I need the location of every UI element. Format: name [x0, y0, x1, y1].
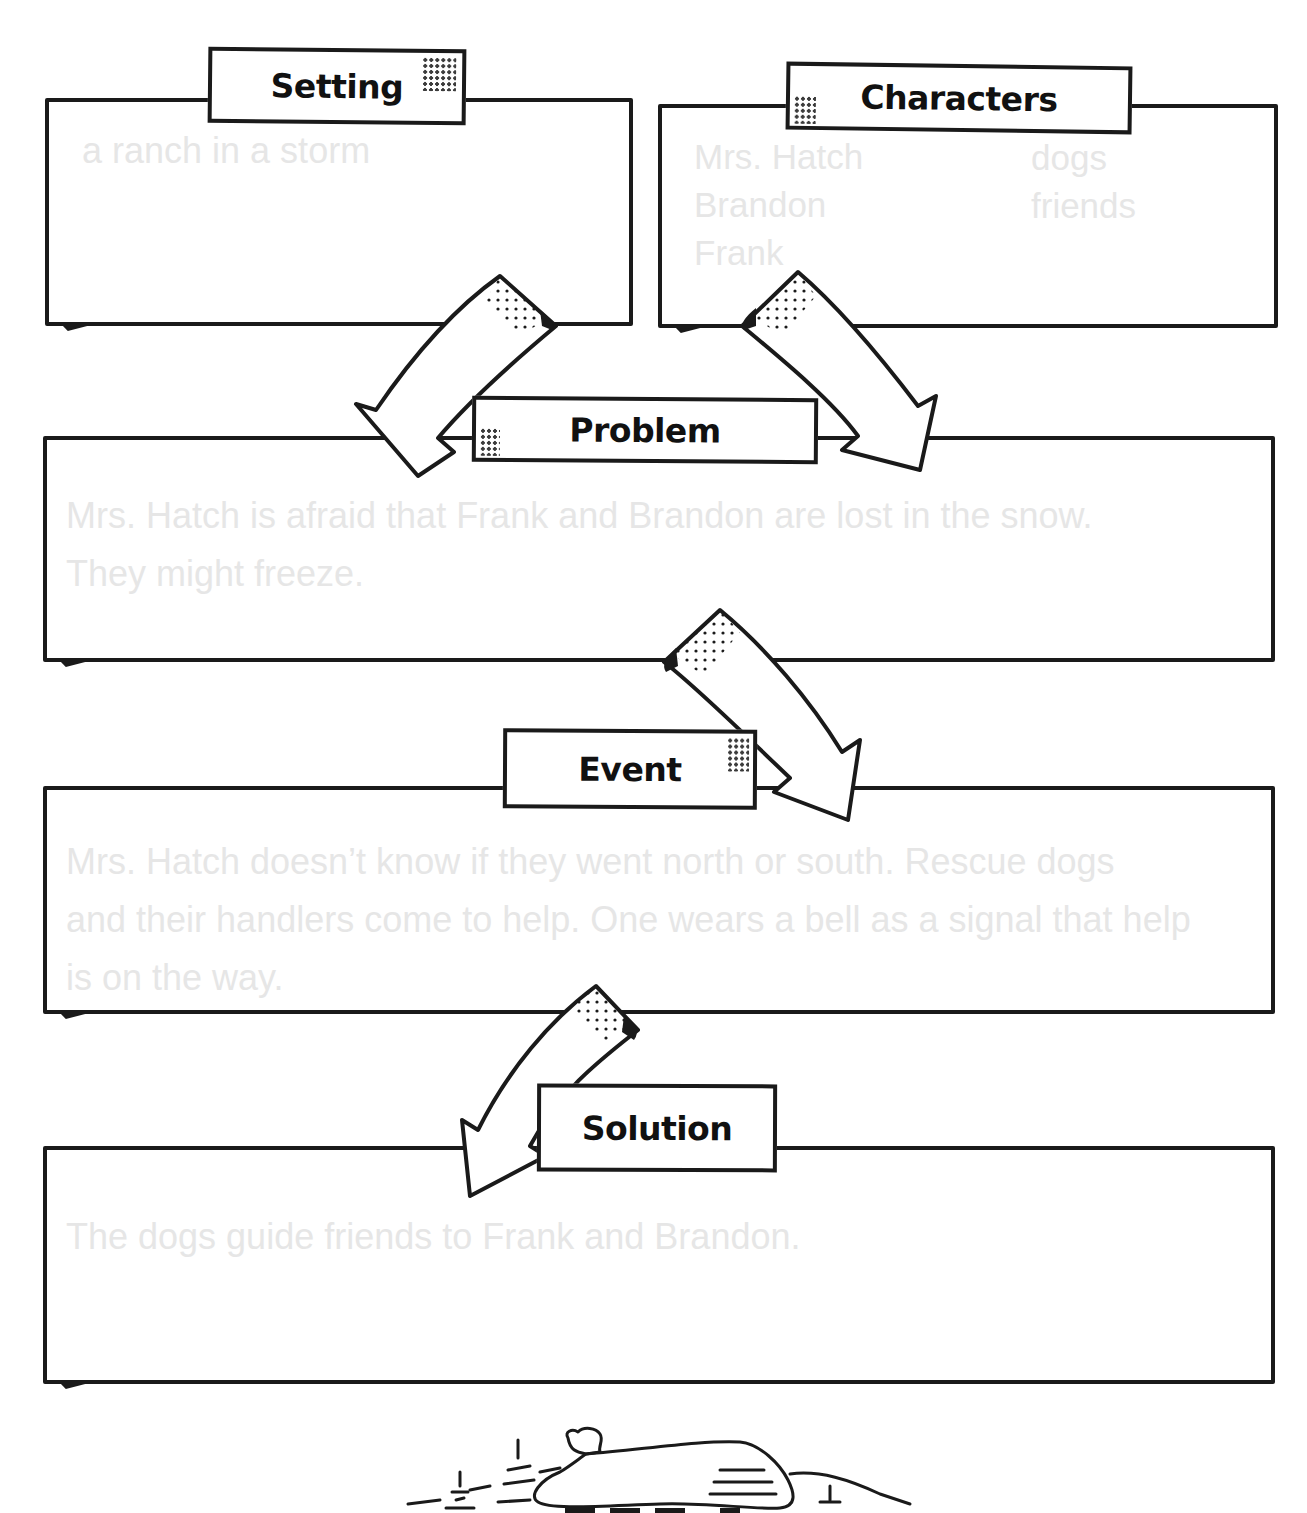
characters-label-text: Characters	[860, 77, 1058, 119]
character-name: friends	[1031, 182, 1136, 230]
solution-label-text: Solution	[582, 1108, 733, 1148]
event-answer[interactable]: Mrs. Hatch doesn’t know if they went nor…	[66, 833, 1191, 1007]
characters-label: Characters	[786, 62, 1133, 135]
stipple-decoration	[422, 57, 456, 91]
problem-label: Problem	[472, 396, 818, 464]
problem-label-text: Problem	[569, 410, 721, 450]
character-name: Brandon	[694, 181, 863, 229]
problem-answer[interactable]: Mrs. Hatch is afraid that Frank and Bran…	[66, 487, 1093, 603]
log-cabin-illustration-icon	[400, 1410, 920, 1513]
event-label-text: Event	[578, 749, 681, 789]
setting-answer[interactable]: a ranch in a storm	[82, 122, 370, 180]
solution-label: Solution	[537, 1084, 777, 1173]
event-label: Event	[503, 728, 757, 809]
solution-answer[interactable]: The dogs guide friends to Frank and Bran…	[66, 1208, 800, 1266]
characters-column-1[interactable]: Mrs. Hatch Brandon Frank	[694, 133, 863, 277]
character-name: dogs	[1031, 134, 1136, 182]
characters-column-2[interactable]: dogs friends	[1031, 134, 1136, 230]
stipple-decoration	[480, 428, 500, 456]
setting-label-text: Setting	[270, 66, 403, 106]
character-name: Mrs. Hatch	[694, 133, 863, 181]
stipple-decoration	[794, 96, 816, 124]
stipple-decoration	[727, 738, 749, 772]
setting-label: Setting	[208, 47, 467, 126]
character-name: Frank	[694, 229, 863, 277]
